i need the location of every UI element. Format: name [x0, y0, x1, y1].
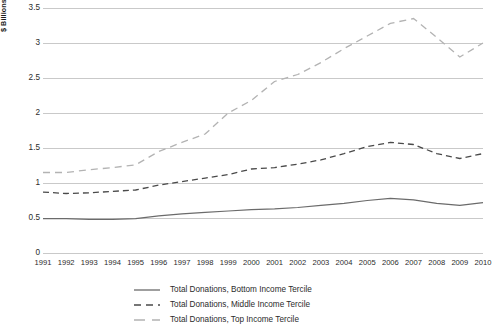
y-axis-tick-label: 1: [14, 179, 40, 187]
legend-swatch-solid-icon: [134, 285, 160, 295]
legend-item-middle-tercile: Total Donations, Middle Income Tercile: [134, 298, 310, 312]
series-layer: [43, 8, 483, 253]
y-axis-tick-label: 3.5: [14, 4, 40, 12]
y-axis-tick-label: 0.5: [14, 214, 40, 222]
x-axis-tick-labels: 1991199219931994199519961997199819992000…: [43, 258, 483, 272]
plot-area: [43, 8, 483, 253]
legend-item-top-tercile: Total Donations, Top Income Tercile: [134, 313, 299, 327]
legend-label-top-tercile: Total Donations, Top Income Tercile: [170, 316, 299, 324]
legend-label-middle-tercile: Total Donations, Middle Income Tercile: [170, 301, 310, 309]
y-axis-tick-label: 2.5: [14, 74, 40, 82]
y-axis-tick-label: 3: [14, 39, 40, 47]
y-axis-tick-label: 2: [14, 109, 40, 117]
chart-legend: Total Donations, Bottom Income Tercile T…: [0, 283, 488, 328]
series-line: [43, 198, 483, 219]
legend-item-bottom-tercile: Total Donations, Bottom Income Tercile: [134, 283, 312, 297]
gridline: [43, 253, 483, 254]
legend-label-bottom-tercile: Total Donations, Bottom Income Tercile: [170, 286, 312, 294]
y-axis-tick-label: 0: [14, 249, 40, 257]
legend-swatch-longdash-icon: [134, 315, 160, 325]
x-axis-tick-label: 2010: [463, 258, 496, 267]
y-axis-tick-label: 1.5: [14, 144, 40, 152]
y-axis-tick-labels: 00.511.522.533.5: [8, 0, 40, 262]
legend-swatch-dashed-icon: [134, 300, 160, 310]
series-line: [43, 19, 483, 173]
